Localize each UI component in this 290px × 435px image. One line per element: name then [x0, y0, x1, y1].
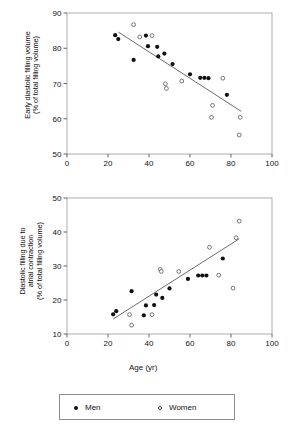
data-point-men: [144, 33, 148, 37]
data-point-women: [237, 133, 241, 137]
data-point-men: [111, 312, 115, 316]
x-axis-tick-label: 20: [104, 159, 113, 168]
legend-label-women: Women: [169, 403, 196, 412]
y-axis-tick-label: 10: [53, 330, 62, 339]
x-axis-tick-label: 40: [145, 159, 154, 168]
data-point-women: [231, 286, 235, 290]
data-point-women: [138, 35, 142, 39]
data-point-men: [156, 54, 160, 58]
data-point-women: [130, 323, 134, 327]
regression-line: [113, 239, 239, 319]
x-axis-tick-label: 100: [265, 339, 279, 348]
x-axis-tick-label: 100: [265, 159, 279, 168]
data-point-men: [170, 62, 174, 66]
data-point-men: [200, 273, 204, 277]
data-point-women: [237, 219, 241, 223]
data-point-women: [128, 313, 132, 317]
data-point-women: [217, 273, 221, 277]
x-axis-tick-label: 0: [65, 159, 70, 168]
x-axis-tick-label: 40: [145, 339, 154, 348]
data-point-women: [180, 79, 184, 83]
data-point-men: [114, 309, 118, 313]
data-point-men: [167, 286, 171, 290]
data-point-women: [177, 270, 181, 274]
data-point-men: [160, 296, 164, 300]
y-axis-tick-label: 80: [53, 44, 62, 53]
data-point-women: [221, 76, 225, 80]
data-point-men: [196, 273, 200, 277]
x-axis-tick-label: 60: [186, 339, 195, 348]
data-point-men: [162, 51, 166, 55]
scatter-plot-top: 5060708090020406080100: [0, 0, 290, 180]
data-point-men: [225, 93, 229, 97]
data-point-men: [144, 303, 148, 307]
data-point-men: [152, 303, 156, 307]
legend: Men Women: [59, 394, 235, 420]
y-axis-tick-label: 70: [53, 80, 62, 89]
y-axis-tick-label: 90: [53, 9, 62, 18]
data-point-men: [142, 313, 146, 317]
x-axis-tick-label: 60: [186, 159, 195, 168]
data-point-women: [165, 87, 169, 91]
y-axis-tick-label: 50: [53, 194, 62, 203]
chart-panel-early-diastolic-filling: Early diastolic filling volume (% of tot…: [0, 0, 290, 180]
data-point-women: [208, 245, 212, 249]
data-point-men: [155, 45, 159, 49]
data-point-men: [116, 37, 120, 41]
x-axis-tick-label: 80: [227, 159, 236, 168]
data-point-women: [234, 236, 238, 240]
data-point-women: [211, 103, 215, 107]
regression-line: [118, 32, 241, 111]
figure-container: Early diastolic filling volume (% of tot…: [0, 0, 290, 435]
scatter-plot-bottom: 1020304050020406080100: [0, 186, 290, 371]
y-axis-tick-label: 40: [53, 228, 62, 237]
plot-frame: [67, 13, 272, 154]
data-point-women: [132, 23, 136, 27]
legend-item-women: Women: [158, 403, 196, 412]
legend-label-men: Men: [85, 403, 101, 412]
data-point-women: [238, 115, 242, 119]
y-axis-tick-label: 30: [53, 262, 62, 271]
y-axis-tick-label: 20: [53, 296, 62, 305]
x-axis-label: Age (yr): [129, 363, 157, 372]
open-circle-icon: [158, 406, 162, 410]
data-point-women: [164, 82, 168, 86]
data-point-men: [146, 44, 150, 48]
data-point-men: [188, 72, 192, 76]
data-point-men: [154, 292, 158, 296]
data-point-men: [204, 273, 208, 277]
y-axis-tick-label: 60: [53, 115, 62, 124]
data-point-men: [206, 76, 210, 80]
data-point-women: [150, 34, 154, 38]
y-axis-tick-label: 50: [53, 150, 62, 159]
legend-item-men: Men: [74, 403, 101, 412]
plot-frame: [67, 198, 272, 334]
data-point-men: [113, 33, 117, 37]
data-point-women: [210, 115, 214, 119]
data-point-men: [221, 256, 225, 260]
x-axis-tick-label: 0: [65, 339, 70, 348]
data-point-men: [186, 277, 190, 281]
data-point-men: [198, 76, 202, 80]
chart-panel-atrial-contraction: Diastolic filling due to atrial contract…: [0, 186, 290, 371]
data-point-men: [202, 76, 206, 80]
filled-circle-icon: [74, 406, 78, 410]
x-axis-tick-label: 80: [227, 339, 236, 348]
x-axis-tick-label: 20: [104, 339, 113, 348]
data-point-men: [132, 58, 136, 62]
data-point-men: [129, 289, 133, 293]
data-point-women: [159, 270, 163, 274]
data-point-women: [150, 313, 154, 317]
